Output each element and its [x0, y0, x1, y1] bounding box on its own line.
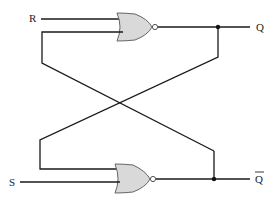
- sr-latch-diagram: R Q S Q: [0, 0, 273, 198]
- bottom-nor-gate: [115, 164, 156, 193]
- input-label-s: S: [9, 176, 15, 188]
- wire-q-feedback: [40, 27, 218, 169]
- top-nor-gate: [117, 13, 158, 41]
- output-label-q: Q: [256, 21, 264, 33]
- input-label-r: R: [29, 12, 37, 24]
- output-label-qbar: Q: [255, 173, 263, 185]
- inversion-bubble-icon: [150, 176, 155, 181]
- inversion-bubble-icon: [152, 24, 157, 29]
- wire-qbar-feedback: [42, 32, 214, 151]
